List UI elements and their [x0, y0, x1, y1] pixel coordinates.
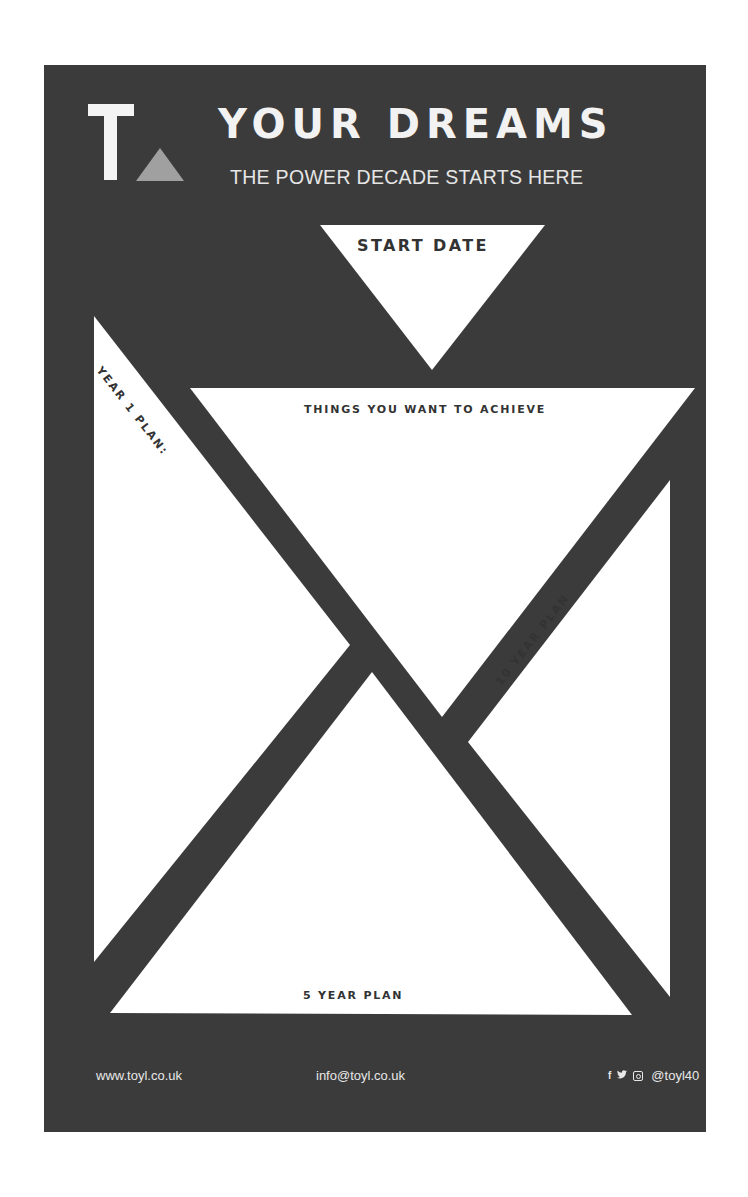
website-link[interactable]: www.toyl.co.uk [96, 1067, 182, 1085]
social-handle[interactable]: @toyl40 [651, 1067, 699, 1085]
facebook-icon[interactable]: f [608, 1070, 611, 1082]
email-link[interactable]: info@toyl.co.uk [316, 1067, 405, 1085]
social-links: f @toyl40 [608, 1067, 699, 1085]
things-to-achieve-label: THINGS YOU WANT TO ACHIEVE [304, 403, 546, 416]
start-date-label: START DATE [357, 236, 489, 255]
logo-t-icon [88, 104, 134, 180]
twitter-icon[interactable] [617, 1070, 627, 1082]
five-year-plan-label: 5 YEAR PLAN [303, 989, 403, 1002]
page-subtitle: THE POWER DECADE STARTS HERE [230, 165, 583, 189]
instagram-icon[interactable] [633, 1071, 643, 1081]
logo-triangle-icon [136, 148, 184, 181]
page-title: YOUR DREAMS [218, 100, 614, 148]
